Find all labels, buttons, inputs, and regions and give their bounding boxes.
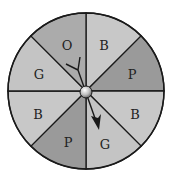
spinner-hub	[80, 86, 92, 98]
sector-label-2: P	[128, 67, 137, 82]
sector-label-5: P	[64, 135, 73, 150]
sector-label-6: B	[33, 107, 43, 122]
sector-label-3: B	[130, 107, 140, 122]
spinner-diagram: B P B G P B G O	[0, 0, 172, 178]
sector-label-1: B	[99, 38, 109, 53]
sector-label-8: O	[62, 38, 73, 53]
sector-label-7: G	[34, 67, 44, 82]
sector-label-4: G	[100, 137, 110, 152]
